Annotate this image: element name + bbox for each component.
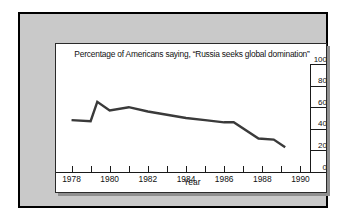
y-axis: 100806040200	[310, 64, 327, 172]
x-tick-1984	[186, 166, 187, 172]
chart-title: Percentage of Americans saying, “Russia …	[56, 49, 327, 59]
chart-panel: Percentage of Americans saying, “Russia …	[55, 43, 327, 193]
x-tick-1983	[167, 166, 168, 172]
data-series-line	[72, 102, 286, 147]
y-tick-label-0: 0	[310, 163, 327, 172]
x-tick-1989	[281, 166, 282, 172]
figure-frame: Percentage of Americans saying, “Russia …	[18, 12, 328, 208]
x-axis-line	[56, 172, 327, 173]
x-tick-1990	[300, 166, 301, 172]
x-tick-1985	[205, 166, 206, 172]
plot-area	[62, 64, 310, 160]
y-tick-label-80: 80	[310, 76, 327, 85]
y-tick-60	[310, 107, 327, 108]
x-tick-1978	[72, 166, 73, 172]
y-tick-40	[310, 129, 327, 130]
x-tick-1979	[91, 166, 92, 172]
y-tick-20	[310, 150, 327, 151]
x-tick-1980	[110, 166, 111, 172]
y-tick-100	[310, 64, 327, 65]
x-tick-1988	[262, 166, 263, 172]
y-tick-label-60: 60	[310, 98, 327, 107]
x-axis-title: Year	[56, 177, 327, 188]
x-tick-1987	[243, 166, 244, 172]
data-line-svg	[62, 64, 310, 160]
x-tick-1986	[224, 166, 225, 172]
x-tick-1981	[129, 166, 130, 172]
y-tick-80	[310, 86, 327, 87]
y-tick-label-100: 100	[310, 55, 327, 64]
y-tick-label-40: 40	[310, 119, 327, 128]
x-axis-ticks	[62, 166, 310, 172]
y-tick-label-20: 20	[310, 141, 327, 150]
x-tick-1982	[148, 166, 149, 172]
